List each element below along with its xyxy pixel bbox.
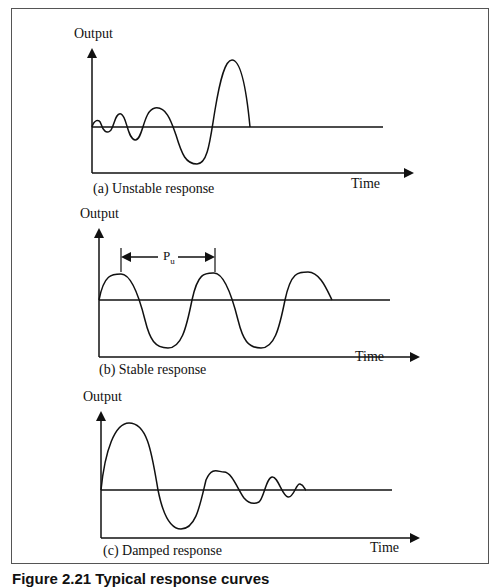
response-curve bbox=[92, 60, 250, 164]
panel-c-x-label: Time bbox=[370, 540, 399, 556]
panel-b-y-label: Output bbox=[80, 206, 119, 222]
figure-caption: Figure 2.21 Typical response curves bbox=[12, 570, 269, 587]
response-curve bbox=[101, 423, 306, 529]
panel-a-x-label: Time bbox=[351, 176, 380, 192]
period-label: Pu bbox=[163, 248, 175, 266]
response-curve bbox=[99, 272, 332, 348]
panel-b-subtitle: (b) Stable response bbox=[99, 362, 206, 378]
panel-a-subtitle: (a) Unstable response bbox=[93, 181, 214, 197]
panel-a-y-label: Output bbox=[74, 26, 113, 42]
panel-b bbox=[99, 230, 418, 357]
panel-c-subtitle: (c) Damped response bbox=[103, 543, 222, 559]
panel-a bbox=[92, 50, 412, 173]
panel-c-y-label: Output bbox=[83, 389, 122, 405]
panel-b-x-label: Time bbox=[355, 349, 384, 365]
panel-c bbox=[101, 413, 418, 538]
